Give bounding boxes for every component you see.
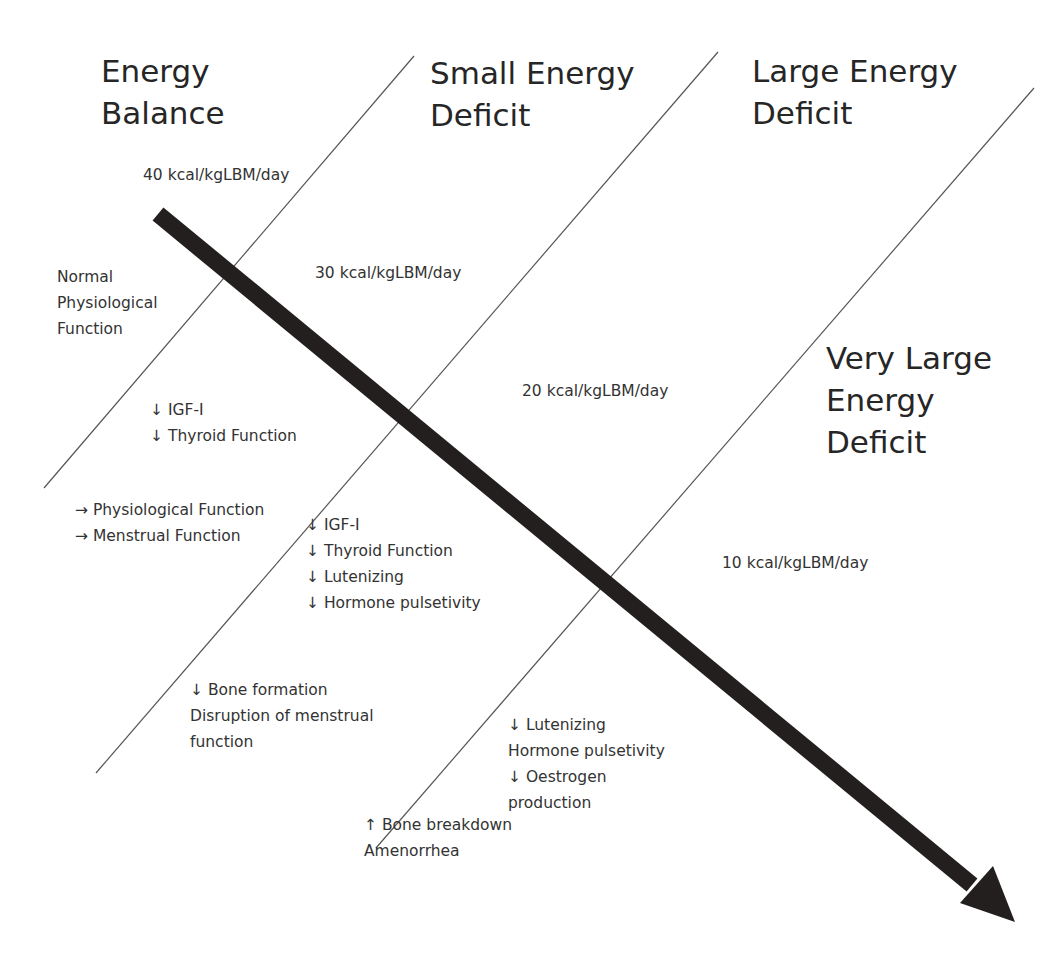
effects-very-large-deficit-upper: ↓ Lutenizing Hormone pulsetivity ↓ Oestr… — [508, 712, 665, 816]
effects-large-deficit-lower: ↓ Bone formation Disruption of menstrual… — [190, 677, 373, 755]
threshold-40-label: 40 kcal/kgLBM/day — [143, 168, 289, 184]
threshold-30-label: 30 kcal/kgLBM/day — [315, 266, 461, 282]
effects-very-large-deficit-lower: ↑ Bone breakdown Amenorrhea — [364, 812, 512, 864]
diagram-graphics — [0, 0, 1063, 962]
zone-heading-very-large-energy-deficit: Very Large Energy Deficit — [826, 337, 992, 463]
threshold-10-label: 10 kcal/kgLBM/day — [722, 556, 868, 572]
threshold-20-label: 20 kcal/kgLBM/day — [522, 384, 668, 400]
zone-heading-energy-balance: Energy Balance — [101, 50, 225, 134]
effects-normal-function: Normal Physiological Function — [57, 264, 157, 342]
effects-small-deficit-upper: ↓ IGF-I ↓ Thyroid Function — [150, 397, 297, 449]
zone-heading-large-energy-deficit: Large Energy Deficit — [752, 50, 958, 134]
effects-small-deficit-lower: → Physiological Function → Menstrual Fun… — [75, 497, 264, 549]
effects-large-deficit-upper: ↓ IGF-I ↓ Thyroid Function ↓ Lutenizing … — [306, 512, 481, 616]
zone-heading-small-energy-deficit: Small Energy Deficit — [430, 52, 634, 136]
